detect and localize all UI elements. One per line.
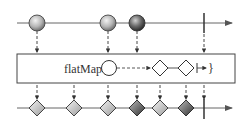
input-marble-circle-2 — [100, 15, 116, 31]
operator-to-output-connectors — [37, 85, 204, 99]
input-to-operator-connectors — [37, 31, 204, 52]
input-marble-circle-3 — [129, 15, 145, 31]
input-timeline — [17, 13, 232, 33]
output-marble-diamond-1 — [29, 100, 45, 116]
input-marble-circle-1 — [29, 15, 45, 31]
output-marble-diamond-5 — [152, 100, 168, 116]
output-marble-diamond-3 — [100, 100, 116, 116]
output-marble-diamond-4 — [129, 100, 145, 116]
output-marble-diamond-2 — [66, 100, 82, 116]
output-timeline — [17, 99, 232, 119]
operator-box-frame — [17, 54, 235, 83]
operator-inner-circle — [102, 61, 117, 76]
operator-box: flatMap{ } — [17, 54, 235, 83]
operator-closing-brace: } — [208, 61, 214, 75]
output-marble-diamond-6 — [178, 100, 194, 116]
flatmap-marble-diagram: flatMap{ } — [0, 0, 249, 129]
